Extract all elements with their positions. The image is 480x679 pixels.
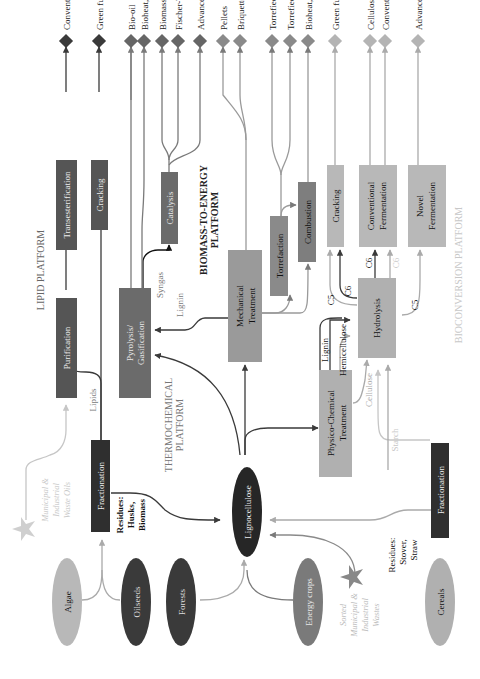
diamond-icon (171, 34, 185, 48)
source-cereals: Cereals (425, 558, 455, 646)
waste-oils-label-2: Industrial (51, 483, 61, 518)
svg-text:Pyrolysis/: Pyrolysis/ (125, 324, 135, 361)
source-energy-crops: Energy crops (293, 558, 323, 646)
waste-oils-label-1: Municipal & (40, 478, 50, 523)
residues-stover-label-3: Straw (409, 539, 419, 560)
product-bioheat-energy: Bioheat, bioelectricity (301, 0, 315, 48)
residues-stover-label-2: Stover, (398, 539, 408, 564)
svg-text:Fermentation: Fermentation (427, 182, 437, 230)
product-bioheat-thermo: Bioheat, bioelectricity (137, 0, 151, 48)
svg-text:Fractionation: Fractionation (436, 466, 446, 514)
product-fischer-tropsch: Fischer-Tropsch fuels (171, 0, 185, 48)
process-torrefaction: Torrefaction (270, 216, 288, 296)
product-label: Bioheat, bioelectricity (304, 0, 314, 30)
product-label: Bioheat, bioelectricity (140, 0, 150, 30)
svg-text:Forests: Forests (177, 589, 187, 616)
lipids-label: Lipids (88, 388, 98, 411)
svg-text:Physico-Chemical: Physico-Chemical (326, 390, 336, 456)
diamond-icon (378, 34, 392, 48)
diamond-icon (124, 34, 138, 48)
diamond-icon (137, 34, 151, 48)
cellulose-label: Cellulose (364, 373, 374, 407)
product-label: Biomass-to-liquid (BTL) (158, 0, 168, 30)
diamond-icon (59, 34, 73, 48)
diamond-icon (92, 34, 106, 48)
thermochemical-platform-label-1: THERMOCHEMICAL (163, 378, 174, 472)
product-cellulosic-ethanol: Cellulosic ethanol (363, 0, 377, 48)
c5-label-b: C5 (410, 299, 420, 310)
biomass-to-energy-platform-label-2: PLATFORM (209, 191, 220, 248)
c6-label-a: C6 (343, 285, 353, 296)
hub-lignocellulose: Lignocellulose (232, 467, 262, 557)
process-mechanical-treatment: Mechanical Treatment (228, 250, 262, 362)
star-icon (12, 517, 35, 541)
svg-text:Hydrolysis: Hydrolysis (372, 298, 382, 338)
thermochemical-platform-label-2: PLATFORM (174, 399, 185, 451)
product-torrefied-briquettes: Torrefied Briquettes (283, 0, 297, 48)
diamond-icon (301, 34, 315, 48)
bioconversion-platform-label: BIOCONVERSION PLATFORM (453, 207, 464, 344)
product-label: Torrefied Pellets (268, 0, 278, 30)
diamond-icon (233, 34, 247, 48)
source-oilseeds: Oilseeds (121, 558, 151, 646)
process-cracking-lipid: Cracking (91, 160, 108, 230)
residues-husks-label-2: Husks, (126, 502, 136, 528)
diamond-icon (265, 34, 279, 48)
product-label: Torrefied Briquettes (286, 0, 296, 30)
process-conventional-fermentation: Conventional Fermentation (359, 165, 397, 247)
products: Conventional biodiesel Green fuels Bio-o… (59, 0, 425, 48)
lipid-platform-label: LIPID PLATFORM (35, 230, 46, 310)
product-green-fuels-lipid: Green fuels (92, 0, 106, 48)
diamond-icon (283, 34, 297, 48)
process-transesterification: Transesterification (56, 160, 77, 250)
product-label: Advanced bioproducts (414, 0, 424, 30)
product-conventional-ethanol: Conventional ethanol (378, 0, 392, 48)
sorted-wastes-label-4: Wastes (371, 603, 381, 627)
svg-text:Oilseeds: Oilseeds (132, 586, 142, 617)
svg-text:Transesterification: Transesterification (62, 171, 72, 239)
residues-husks-label-1: Residues: (115, 496, 125, 533)
process-purification: Purification (56, 298, 77, 398)
c6-label-b: C6 (364, 257, 374, 268)
star-icon (340, 565, 363, 589)
product-briquettes: Briquettes (233, 0, 247, 48)
process-fractionation-cereal: Fractionation (431, 443, 449, 538)
source-algae: Algae (52, 558, 82, 646)
process-combustion: Combustion (298, 182, 316, 262)
product-label: Briquettes (236, 0, 246, 30)
svg-text:Treatment: Treatment (247, 287, 257, 324)
svg-text:Purification: Purification (62, 326, 72, 369)
product-torrefied-pellets: Torrefied Pellets (265, 0, 279, 48)
svg-text:Treatment: Treatment (338, 404, 348, 441)
svg-text:Cracking: Cracking (95, 178, 105, 211)
product-label: Fischer-Tropsch fuels (174, 0, 184, 30)
biomass-to-energy-platform-label-1: BIOMASS-TO-ENERGY (198, 164, 209, 275)
c6-label-c: C6 (391, 257, 401, 268)
svg-text:Torrefaction: Torrefaction (275, 233, 285, 278)
product-bio-oil: Bio-oil (124, 4, 138, 48)
product-label: Cellulosic ethanol (366, 0, 376, 30)
source-waste-oils: Municipal & Industrial Waste Oils (12, 478, 72, 541)
lignin-pyro-label: Lignin (175, 293, 185, 317)
product-label: Bio-oil (127, 4, 137, 30)
diamond-icon (411, 34, 425, 48)
diamond-icon (193, 34, 207, 48)
svg-text:Mechanical: Mechanical (235, 285, 245, 327)
svg-text:Conventional: Conventional (366, 181, 376, 230)
svg-text:Fractionation: Fractionation (96, 462, 106, 510)
process-physico-chemical-treatment: Physico-Chemical Treatment (319, 370, 352, 477)
svg-text:Fermentation: Fermentation (378, 182, 388, 230)
product-advanced-bioproducts-bio: Advanced bioproducts (411, 0, 425, 48)
product-label: Green fuels (331, 0, 341, 30)
diamond-icon (363, 34, 377, 48)
product-label: Green fuels (95, 0, 105, 30)
product-conventional-biodiesel: Conventional biodiesel (59, 0, 73, 48)
product-label: Pellets (219, 6, 229, 30)
residues-husks-label-3: Biomass (137, 499, 147, 532)
process-novel-fermentation: Novel Fermentation (408, 165, 446, 247)
product-pellets: Pellets (216, 6, 230, 49)
diamond-icon (216, 34, 230, 48)
process-hydrolysis: Hydrolysis (358, 278, 396, 358)
product-btl: Biomass-to-liquid (BTL) (155, 0, 169, 48)
product-label: Conventional ethanol (381, 0, 391, 30)
